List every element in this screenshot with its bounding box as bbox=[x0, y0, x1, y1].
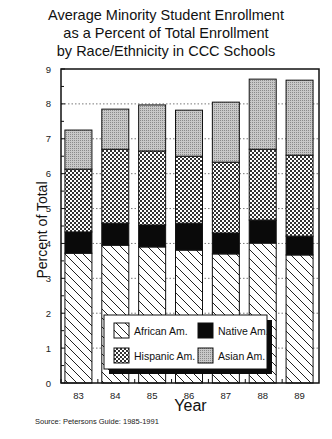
bar-segment bbox=[249, 79, 276, 149]
bar-segment bbox=[176, 156, 203, 223]
bar-segment bbox=[176, 223, 203, 250]
y-tick-label: 9 bbox=[46, 64, 51, 75]
bar-segment bbox=[286, 80, 313, 155]
source-note: Source: Petersons Guide: 1985-1991 bbox=[35, 417, 159, 426]
y-tick-label: 8 bbox=[46, 98, 51, 109]
bar-segment bbox=[65, 253, 92, 383]
legend: African Am.Native Am.Hispanic Am.Asian A… bbox=[104, 315, 272, 374]
legend-label: Native Am. bbox=[218, 325, 269, 337]
bar-segment bbox=[286, 255, 313, 383]
bar-segment bbox=[249, 149, 276, 220]
bar-segment bbox=[212, 162, 239, 233]
bar-segment bbox=[65, 232, 92, 253]
bar-segment bbox=[102, 149, 129, 223]
legend-item-hispanic-am: Hispanic Am. bbox=[114, 348, 195, 363]
bar-segment bbox=[212, 233, 239, 254]
bar-segment bbox=[212, 102, 239, 162]
bar-segment bbox=[249, 220, 276, 243]
y-tick-label: 2 bbox=[46, 308, 51, 319]
legend-label: African Am. bbox=[134, 325, 188, 337]
bar-segment bbox=[139, 151, 166, 225]
bar-segment bbox=[102, 223, 129, 245]
bar-segment bbox=[139, 225, 166, 247]
legend-item-african-am: African Am. bbox=[114, 323, 188, 338]
legend-swatch bbox=[114, 348, 129, 363]
y-tick-label: 7 bbox=[46, 133, 51, 144]
legend-label: Hispanic Am. bbox=[134, 350, 195, 362]
legend-swatch bbox=[114, 323, 129, 338]
bar-segment bbox=[286, 236, 313, 255]
bar-83 bbox=[65, 130, 92, 383]
bar-segment bbox=[65, 169, 92, 232]
bar-segment bbox=[176, 110, 203, 156]
bar-89 bbox=[286, 80, 313, 383]
y-axis-label: Percent of Total bbox=[34, 160, 50, 300]
bar-segment bbox=[139, 105, 166, 151]
legend-item-asian-am: Asian Am. bbox=[198, 348, 265, 363]
legend-item-native-am: Native Am. bbox=[198, 323, 269, 338]
y-tick-label: 1 bbox=[46, 343, 51, 354]
y-tick-label: 0 bbox=[46, 378, 51, 389]
bar-segment bbox=[286, 155, 313, 236]
legend-swatch bbox=[198, 348, 213, 363]
legend-label: Asian Am. bbox=[218, 350, 265, 362]
legend-swatch bbox=[198, 323, 213, 338]
x-axis-label: Year bbox=[61, 397, 320, 415]
bar-segment bbox=[102, 109, 129, 149]
bar-segment bbox=[65, 130, 92, 169]
